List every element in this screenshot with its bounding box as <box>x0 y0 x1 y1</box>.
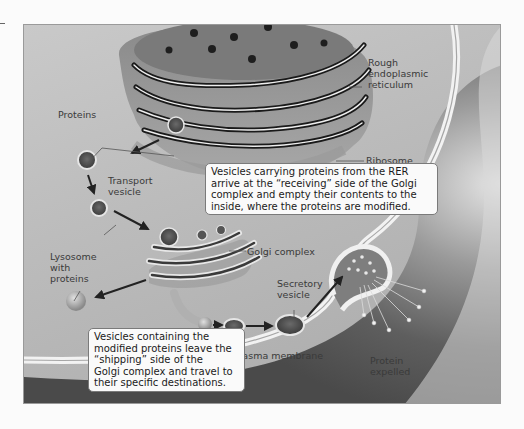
callout-receiving-side: Vesicles carrying proteins from the RER … <box>205 163 438 215</box>
golgi-complex <box>149 226 259 332</box>
label-plasma-membrane: Plasma membrane <box>234 350 323 361</box>
rough-er <box>119 25 373 179</box>
callout-shipping-side: Vesicles containing the modified protein… <box>88 328 245 392</box>
label-secretory-vesicle: Secretory vesicle <box>277 278 323 300</box>
figure-corner-mark <box>0 23 5 24</box>
label-protein-expelled: Protein expelled <box>370 355 410 377</box>
label-lysosome: Lysosome with proteins <box>50 251 97 284</box>
label-transport-vesicle: Transport vesicle <box>108 175 153 197</box>
cell-diagram-frame: Rough endoplasmic reticulum Ribosome Pro… <box>23 24 501 404</box>
label-proteins: Proteins <box>58 109 96 120</box>
label-golgi-complex: Golgi complex <box>247 246 315 257</box>
label-rough-er: Rough endoplasmic reticulum <box>368 57 428 90</box>
